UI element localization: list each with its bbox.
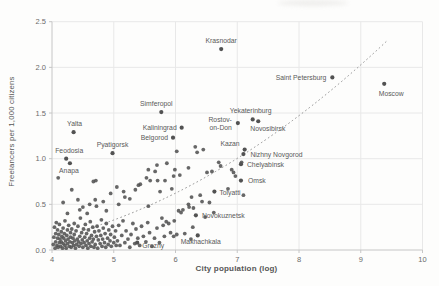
point-label: Novokuznetsk (202, 212, 245, 219)
data-point (158, 190, 162, 194)
point-label: Moscow (379, 90, 404, 97)
data-point (138, 182, 142, 186)
data-point (93, 230, 97, 234)
data-point (128, 197, 132, 201)
point-label: Simferopol (140, 100, 173, 108)
data-point (193, 145, 197, 149)
labeled-data-point (212, 189, 216, 193)
data-point (63, 219, 67, 223)
point-label: Krasnodar (206, 37, 238, 44)
data-point (103, 232, 107, 236)
data-point (87, 228, 91, 232)
data-point (114, 244, 118, 248)
data-point (58, 223, 62, 227)
data-point (72, 222, 76, 226)
data-point (210, 170, 214, 174)
data-point (190, 195, 194, 199)
labeled-data-point (171, 136, 175, 140)
data-point (175, 149, 179, 153)
data-point (118, 244, 122, 248)
data-point (109, 191, 113, 195)
data-point (172, 219, 176, 223)
data-point (242, 193, 246, 197)
x-tick-label: 6 (173, 255, 177, 264)
point-label: Anapa (59, 167, 79, 175)
data-point (195, 150, 199, 154)
data-point (115, 185, 119, 189)
point-label: Pyatigorsk (97, 141, 129, 149)
data-point (123, 195, 127, 199)
data-point (82, 227, 86, 231)
data-point (70, 188, 74, 192)
data-point (146, 204, 150, 208)
data-point (97, 229, 101, 233)
data-point (155, 226, 159, 230)
data-point (111, 224, 115, 228)
labeled-data-point (64, 157, 68, 161)
data-point (85, 212, 89, 216)
data-point (192, 206, 196, 210)
data-point (145, 176, 149, 180)
data-point (153, 236, 157, 240)
data-point (103, 241, 107, 245)
data-point (95, 234, 99, 238)
data-point (165, 161, 169, 165)
data-point (52, 235, 56, 239)
data-point (67, 223, 71, 227)
data-point (78, 234, 82, 238)
data-point (80, 231, 84, 235)
data-point (163, 179, 167, 183)
data-point (175, 233, 179, 237)
labeled-data-point (251, 117, 255, 121)
labeled-data-point (239, 178, 243, 182)
data-point (70, 227, 74, 231)
data-point (66, 228, 70, 232)
data-point (129, 233, 133, 237)
data-point (69, 231, 73, 235)
data-point (219, 164, 223, 168)
data-point (81, 205, 85, 209)
data-point (148, 179, 152, 183)
data-point (61, 201, 65, 205)
labeled-data-point (180, 126, 184, 130)
data-point (94, 179, 98, 183)
data-point (208, 201, 212, 205)
point-label: Kaliningrad (143, 124, 177, 132)
point-label: Rostov-on-Don (208, 116, 232, 131)
data-point (153, 170, 157, 174)
data-point (123, 241, 127, 245)
data-point (178, 173, 182, 177)
data-point (128, 245, 132, 249)
data-point (93, 243, 97, 247)
data-point (66, 212, 70, 216)
labeled-data-point (330, 75, 334, 79)
x-tick-label: 4 (50, 255, 54, 264)
x-tick-label: 10 (418, 255, 426, 264)
point-label: Chelyabinsk (247, 161, 285, 169)
labeled-data-point (236, 121, 240, 125)
x-axis-title: City population (log) (0, 264, 439, 273)
data-point (169, 231, 173, 235)
point-label: Yekaterinburg (230, 107, 272, 115)
data-point (146, 221, 150, 225)
data-point (117, 202, 121, 206)
point-label: Yalta (67, 120, 82, 127)
data-point (54, 240, 58, 244)
data-point (96, 238, 100, 242)
point-label: Feodosia (55, 147, 83, 154)
point-label: Makhachkala (181, 238, 221, 245)
data-point (72, 233, 76, 237)
data-point (61, 226, 65, 230)
data-point (141, 234, 145, 238)
data-point (100, 218, 104, 222)
data-point (78, 208, 82, 212)
data-point (91, 237, 95, 241)
data-point (148, 231, 152, 235)
data-point (96, 246, 100, 250)
data-point (109, 244, 113, 248)
data-point (109, 233, 113, 237)
data-point (191, 225, 195, 229)
data-point (85, 232, 89, 236)
labeled-data-point (196, 233, 200, 237)
data-point (187, 205, 191, 209)
